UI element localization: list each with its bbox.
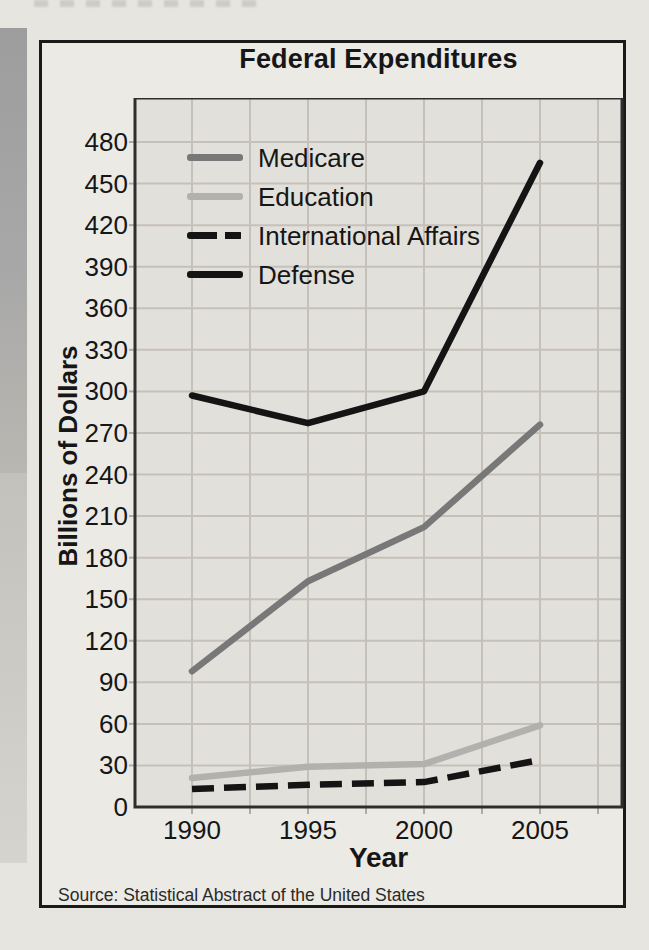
legend-item: International Affairs — [187, 216, 480, 255]
legend-item: Education — [187, 177, 480, 216]
legend-label: Medicare — [258, 144, 365, 172]
legend-item: Medicare — [187, 138, 480, 177]
x-tick-label: 2005 — [482, 816, 598, 844]
source-note: Source: Statistical Abstract of the Unit… — [58, 885, 425, 906]
legend-swatch-line — [187, 193, 243, 200]
scan-artifact-cropped-text — [34, 0, 264, 7]
y-tick-label: 90 — [40, 668, 128, 696]
legend-swatch-dashed-line — [187, 232, 243, 239]
legend-swatch-line — [187, 154, 243, 161]
x-tick-label: 1995 — [250, 816, 366, 844]
legend-label: Defense — [258, 261, 355, 289]
x-tick-label: 1990 — [134, 816, 250, 844]
y-axis-title: Billions of Dollars — [53, 316, 83, 596]
legend-label: Education — [258, 183, 374, 211]
y-tick-label: 60 — [40, 710, 128, 738]
y-tick-label: 480 — [40, 128, 128, 156]
chart-title: Federal Expenditures — [135, 44, 622, 75]
y-tick-label: 390 — [40, 253, 128, 281]
scanned-page: Federal Expenditures MedicareEducationIn… — [0, 0, 649, 950]
legend-label: International Affairs — [258, 222, 480, 250]
legend: MedicareEducationInternational AffairsDe… — [187, 138, 480, 294]
x-tick-label: 2000 — [366, 816, 482, 844]
y-tick-label: 0 — [40, 793, 128, 821]
page-binding-shadow-dark — [0, 28, 27, 473]
y-tick-label: 450 — [40, 170, 128, 198]
y-tick-label: 30 — [40, 751, 128, 779]
legend-swatch-line — [187, 271, 243, 278]
y-tick-label: 420 — [40, 211, 128, 239]
y-tick-label: 120 — [40, 627, 128, 655]
x-axis-title: Year — [135, 842, 622, 874]
page-binding-shadow-light — [0, 473, 27, 863]
legend-item: Defense — [187, 255, 480, 294]
